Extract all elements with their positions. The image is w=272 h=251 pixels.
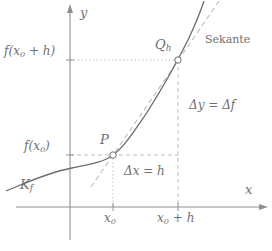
x0h-tail: + h <box>169 211 194 225</box>
p-main: P <box>100 132 109 147</box>
secant-label: Sekante <box>205 34 250 45</box>
x-tick-label-x0: x0 <box>104 212 116 225</box>
point-marker-p <box>110 152 116 158</box>
derivative-secant-diagram: y x f(x0 + h) f(x0) Kf P Qh Sekante Δy =… <box>0 0 272 251</box>
delta-y-label: Δy = Δf <box>189 99 235 111</box>
x-tick-label-x0-plus-h: x0 + h <box>157 212 194 225</box>
x-axis-label: x <box>245 183 252 196</box>
y-axis-arrow <box>67 4 73 13</box>
kf-sub: f <box>30 183 33 193</box>
x0-main: x <box>104 211 111 225</box>
curve-label-kf: Kf <box>20 178 33 193</box>
point-label-p: P <box>100 133 109 146</box>
kf-main: K <box>20 177 30 192</box>
y-tick-label-f-x0: f(x0) <box>24 140 50 153</box>
guide-lines <box>70 60 178 207</box>
fx0h-fn: f( <box>4 44 13 58</box>
x0h-main: x <box>157 211 164 225</box>
y-axis-label: y <box>80 6 87 19</box>
function-curve <box>6 1 204 191</box>
point-marker-qh <box>175 57 181 63</box>
delta-x-label: Δx = h <box>124 165 165 177</box>
fx0h-main: x <box>13 44 20 58</box>
point-label-qh: Qh <box>155 38 171 53</box>
qh-main: Q <box>155 37 166 52</box>
x-axis-arrow <box>259 204 268 210</box>
fx0h-tail: + h) <box>25 44 55 58</box>
fx0-fn: f( <box>24 139 33 153</box>
x0-sub: 0 <box>111 216 116 226</box>
qh-sub: h <box>166 43 172 53</box>
fx0-tail: ) <box>45 139 50 153</box>
secant-line <box>91 1 219 187</box>
fx0-main: x <box>33 139 40 153</box>
y-tick-label-f-x0-plus-h: f(x0 + h) <box>4 45 55 58</box>
axis-ticks <box>66 60 178 211</box>
